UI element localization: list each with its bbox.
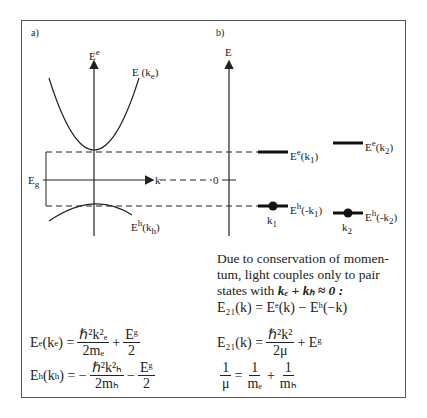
zero-label: 0 bbox=[213, 172, 219, 188]
hole-dot-k1 bbox=[269, 202, 278, 211]
equation-e21-parabolic: E₂₁(k) = ℏ²k²2μ + Eᵍ bbox=[217, 327, 322, 358]
equation-hole-dispersion: Eh(kh) = − ℏ²k²ₕ2mₕ − Eᵍ2 bbox=[30, 360, 158, 391]
level-label-h-k2: Eh(-k2) bbox=[365, 205, 397, 229]
equation-e21-definition: E₂₁(k) = Eᵉ(k) − Eʰ(−k) bbox=[217, 300, 347, 316]
dot-label-k2: k2 bbox=[342, 219, 352, 239]
level-label-e-k2: Ee(k2) bbox=[365, 135, 393, 159]
equation-electron-dispersion: Ee(ke) = ℏ²k²ₑ2mₑ + Eᵍ2 bbox=[30, 327, 143, 358]
valence-band-label: Eh(kh) bbox=[131, 215, 160, 239]
explanation-paragraph: Due to conservation of momen- tum, light… bbox=[217, 251, 397, 299]
panel-a-y-axis-label: Ee bbox=[89, 44, 100, 64]
equation-reduced-mass: 1μ = 1mₑ + 1mₕ bbox=[217, 360, 302, 391]
paragraph-line-2: tum, light couples only to pair bbox=[217, 267, 397, 283]
hole-dot-k2 bbox=[344, 209, 353, 218]
panel-a-label: a) bbox=[31, 25, 39, 41]
paragraph-line-3: states with kₑ + kₕ ≈ 0 : bbox=[217, 283, 397, 299]
panel-b-axis-label: E bbox=[225, 44, 232, 60]
k-axis-label: k bbox=[155, 172, 161, 188]
dot-label-k1: k1 bbox=[267, 212, 277, 232]
gap-label: Eg bbox=[28, 172, 39, 192]
conduction-band-label: E (ke) bbox=[132, 64, 158, 84]
level-label-e-k1: Ee(k1) bbox=[290, 144, 318, 168]
level-label-h-k1: Eh(-k1) bbox=[290, 198, 322, 222]
paragraph-line-1: Due to conservation of momen- bbox=[217, 251, 397, 267]
panel-b-label: b) bbox=[216, 25, 224, 41]
